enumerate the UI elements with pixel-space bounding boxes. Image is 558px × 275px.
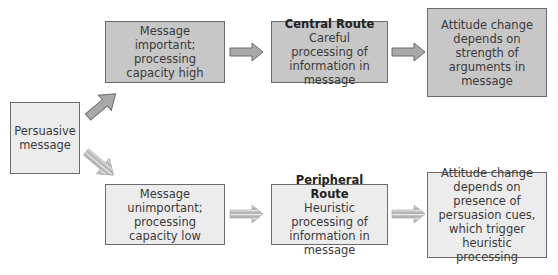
arrow-peripheral-1-icon (230, 205, 263, 223)
central-condition-label: Message important; processing capacity h… (112, 24, 218, 80)
central-outcome-box: Attitude change depends on strength of a… (427, 8, 547, 97)
peripheral-outcome-box: Attitude change depends on presence of p… (427, 172, 547, 258)
arrow-peripheral-2-icon (392, 205, 425, 223)
central-route-box: Central Route Careful processing of info… (271, 21, 388, 83)
peripheral-route-box: Peripheral Route Heuristic processing of… (271, 184, 388, 245)
persuasive-message-label: Persuasive message (14, 124, 76, 152)
central-outcome-label: Attitude change depends on strength of a… (434, 18, 540, 88)
persuasive-message-box: Persuasive message (10, 102, 80, 174)
central-route-desc: Careful processing of information in mes… (278, 31, 381, 87)
peripheral-route-title: Peripheral Route (278, 173, 381, 201)
peripheral-outcome-label: Attitude change depends on presence of p… (434, 166, 540, 264)
arrow-central-1-icon (230, 43, 263, 61)
arrow-to-central-icon (82, 86, 122, 124)
peripheral-condition-label: Message unimportant; processing capacity… (112, 187, 218, 243)
peripheral-route-desc: Heuristic processing of information in m… (278, 201, 381, 257)
central-condition-box: Message important; processing capacity h… (105, 21, 225, 83)
arrow-to-peripheral-icon (80, 144, 120, 182)
peripheral-condition-box: Message unimportant; processing capacity… (105, 184, 225, 245)
central-route-title: Central Route (285, 17, 375, 31)
arrow-central-2-icon (392, 43, 425, 61)
